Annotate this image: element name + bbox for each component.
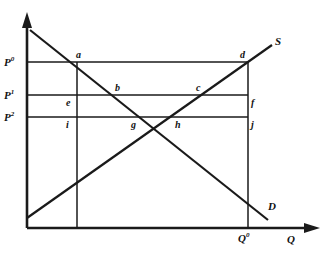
point-label-e: e [66,98,70,108]
point-label-c: c [196,83,200,93]
price-axis-arrow [22,12,32,28]
point-label-j: j [251,120,254,130]
price-label-P2-base: P [4,111,11,123]
quantity-axis-label: Q [287,234,295,245]
price-label-P1-exponent: 1 [11,88,15,96]
price-label-P0: P0 [4,56,14,68]
point-label-g: g [131,120,136,130]
price-label-P1: P1 [4,89,14,101]
quantity-label-Q0-base: Q [238,232,246,244]
quantity-label-Q0: Q0 [238,232,249,244]
point-label-h: h [175,120,181,130]
price-label-P0-base: P [4,56,11,68]
supply-curve [27,45,272,218]
quantity-label-Q0-exponent: 0 [246,231,250,239]
quantity-axis-arrow [304,223,320,233]
point-label-i: i [66,120,69,130]
price-label-P2-exponent: 2 [11,110,15,118]
point-label-b: b [115,83,120,93]
supply-curve-label: S [275,36,281,47]
demand-curve-label: D [268,201,276,212]
point-label-f: f [251,98,254,108]
price-label-P2: P2 [4,111,14,123]
price-label-P0-exponent: 0 [11,55,15,63]
price-label-P1-base: P [4,89,11,101]
supply-demand-figure: P0 P1 P2 Q0 Q S D a b c d e f g h i j [0,0,330,256]
point-label-d: d [240,50,245,60]
point-label-a: a [76,50,81,60]
